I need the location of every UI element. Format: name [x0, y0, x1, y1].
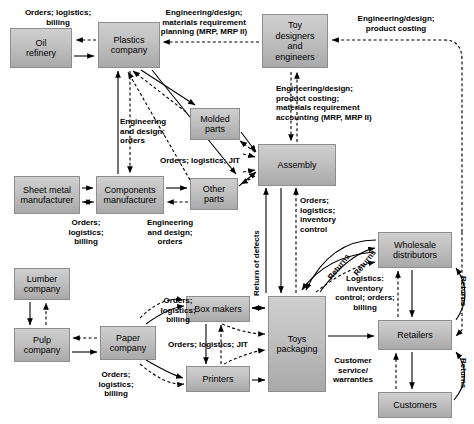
node-label: Sheet metal manufacturer: [18, 185, 75, 206]
node-label: Wholesale distributors: [391, 240, 439, 261]
edge-label-returns-retailers-wholesale: Returns: [459, 276, 469, 306]
node-other-parts[interactable]: Other parts: [190, 178, 238, 210]
edge-label-text: Engineering and design; orders: [120, 117, 166, 145]
edge-label-text: Engineering and design; orders: [147, 218, 193, 246]
node-toy-designers-and-engineers[interactable]: Toy designers and engineers: [262, 14, 328, 68]
node-customers[interactable]: Customers: [378, 392, 452, 418]
edge-label-engineering-design-product-costing: Engineering/design; product costing: [346, 14, 446, 33]
edge-label-text: Orders; logistics; inventory control: [300, 196, 336, 234]
node-label: Lumber company: [22, 274, 63, 295]
edge-label-text: Orders; logistics; billing: [68, 218, 103, 246]
node-oil-refinery[interactable]: Oil refinery: [10, 28, 72, 68]
supply-chain-diagram: Oil refinery Plastics company Toy design…: [0, 0, 474, 424]
edge-label-engineering-design-mrp: Engineering/design; materials requiremen…: [152, 8, 256, 37]
node-label: Other parts: [201, 184, 228, 205]
node-label: Retailers: [395, 330, 435, 341]
edge-label-text: Engineering/design; materials requiremen…: [161, 8, 247, 36]
node-pulp-company[interactable]: Pulp company: [14, 328, 70, 362]
edge-label-text: Orders; logistics; JIT: [168, 340, 248, 349]
edge-label-text: Customer service/ warranties: [333, 356, 373, 384]
edge-label-orders-logistics-jit-molded: Orders; logistics; JIT: [152, 156, 248, 166]
node-molded-parts[interactable]: Molded parts: [190, 108, 240, 140]
node-label: Customers: [391, 400, 439, 411]
edge-label-return-of-defects: Return of defects: [252, 230, 262, 296]
node-label: Components manufacturer: [101, 185, 158, 206]
node-label: Toy designers and engineers: [273, 20, 317, 62]
edge-label-customer-service-warranties: Customer service/ warranties: [322, 356, 384, 385]
edge-label-text: Return of defects: [252, 230, 261, 296]
edge-label-text: Orders; logistics; JIT: [160, 156, 240, 165]
node-label: Toys packaging: [274, 334, 319, 355]
node-label: Pulp company: [22, 335, 63, 356]
node-retailers[interactable]: Retailers: [378, 320, 452, 350]
node-sheet-metal-manufacturer[interactable]: Sheet metal manufacturer: [14, 176, 80, 214]
edge-label-text: Returns: [459, 276, 468, 306]
node-label: Plastics company: [109, 35, 150, 56]
edge-label-orders-logistics-jit-box-packaging: Orders; logistics; JIT: [158, 340, 258, 350]
node-lumber-company[interactable]: Lumber company: [14, 268, 70, 300]
node-plastics-company[interactable]: Plastics company: [98, 22, 160, 68]
edge-label-orders-logistics-billing-printers: Orders; logistics; billing: [88, 370, 144, 399]
edge-label-engineering-design-orders-components: Engineering and design; orders: [142, 218, 198, 247]
node-label: Printers: [200, 374, 235, 385]
node-wholesale-distributors[interactable]: Wholesale distributors: [378, 232, 452, 268]
edge-label-orders-logistics-billing-sheet-metal: Orders; logistics; billing: [58, 218, 114, 247]
edge-label-engineering-design-product-costing-mra: Engineering/design; product costing; mat…: [276, 84, 396, 122]
edge-label-orders-logistics-inventory-control: Orders; logistics; inventory control: [300, 196, 356, 234]
edge-label-text: Logistics: inventory control; orders; bi…: [335, 274, 395, 312]
edge-label-orders-logistics-billing-oil: Orders; logistics; billing: [16, 8, 100, 27]
edge-label-text: Returns: [459, 358, 468, 388]
node-toys-packaging[interactable]: Toys packaging: [268, 296, 326, 392]
edge-label-text: Engineering/design; product costing; mat…: [276, 84, 372, 122]
edge-label-returns-customers-retailers: Returns: [459, 358, 469, 388]
edge-label-text: Engineering/design; product costing: [358, 14, 435, 33]
edge-label-text: Orders; logistics; billing: [98, 370, 133, 398]
edge-label-engineering-design-orders-plastics: Engineering and design; orders: [120, 117, 176, 146]
edge-label-orders-logistics-billing-paper-box: Orders; logistics; billing: [150, 296, 206, 325]
node-paper-company[interactable]: Paper company: [100, 326, 156, 360]
node-label: Oil refinery: [24, 38, 58, 59]
node-label: Assembly: [275, 160, 318, 171]
edge-label-text: Orders; logistics; billing: [160, 296, 195, 324]
edge-label-logistics-inventory-control-orders-billing: Logistics: inventory control; orders; bi…: [328, 274, 402, 312]
node-label: Molded parts: [198, 114, 232, 135]
node-printers[interactable]: Printers: [186, 366, 250, 392]
node-label: Paper company: [108, 333, 149, 354]
edge-label-text: Orders; logistics; billing: [25, 8, 91, 27]
node-components-manufacturer[interactable]: Components manufacturer: [96, 176, 164, 214]
node-assembly[interactable]: Assembly: [258, 144, 336, 186]
